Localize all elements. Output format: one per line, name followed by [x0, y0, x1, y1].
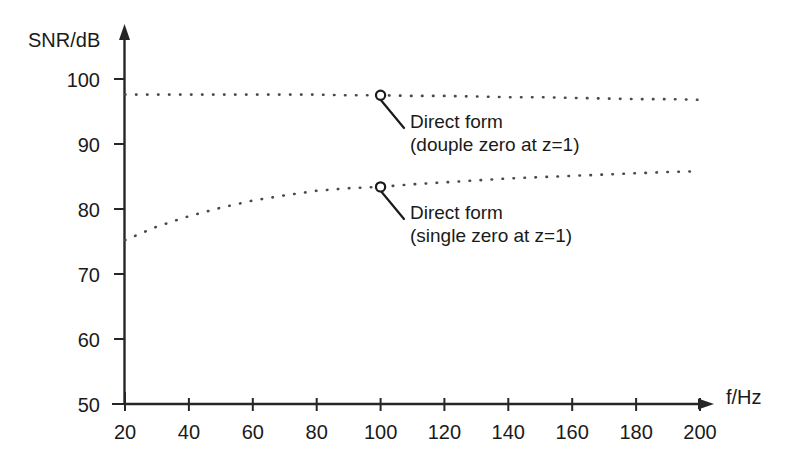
marker-single-zero-100hz[interactable]	[376, 182, 385, 191]
y-tick-label-100: 100	[67, 69, 100, 91]
curve-double-zero	[125, 95, 700, 100]
snr-vs-frequency-chart: 100 90 80 70 60 50 20 40 60 80 100	[0, 0, 795, 463]
x-tick-label-80: 80	[306, 421, 328, 443]
leader-line-double-zero	[380, 99, 404, 128]
annotation-single-zero: Direct form (single zero at z=1)	[410, 202, 572, 246]
leader-line-single-zero	[380, 190, 404, 219]
x-tick-label-100: 100	[364, 421, 397, 443]
x-tick-label-20: 20	[114, 421, 136, 443]
x-tick-label-40: 40	[178, 421, 200, 443]
y-tick-label-60: 60	[78, 329, 100, 351]
y-tick-label-70: 70	[78, 264, 100, 286]
data-markers	[376, 91, 385, 192]
chart-figure: 100 90 80 70 60 50 20 40 60 80 100	[0, 0, 795, 463]
x-tick-label-200: 200	[683, 421, 716, 443]
x-axis-ticks	[125, 392, 700, 411]
y-axis-tick-labels: 100 90 80 70 60 50	[67, 69, 100, 416]
x-tick-label-140: 140	[492, 421, 525, 443]
annotation-double-zero: Direct form (douple zero at z=1)	[410, 111, 580, 155]
marker-double-zero-100hz[interactable]	[376, 91, 385, 100]
y-tick-label-90: 90	[78, 134, 100, 156]
y-tick-label-50: 50	[78, 394, 100, 416]
y-axis-ticks	[112, 79, 125, 404]
x-axis-title: f/Hz	[726, 386, 762, 408]
x-tick-label-120: 120	[428, 421, 461, 443]
x-tick-label-180: 180	[619, 421, 652, 443]
annotation-double-zero-line1: Direct form	[410, 111, 503, 132]
x-tick-label-160: 160	[556, 421, 589, 443]
y-axis-arrow-icon	[119, 24, 130, 40]
x-axis-tick-labels: 20 40 60 80 100 120 140 160 180 200	[114, 421, 717, 443]
y-axis-title: SNR/dB	[28, 29, 100, 51]
leader-lines	[380, 99, 404, 219]
y-tick-label-80: 80	[78, 199, 100, 221]
annotation-double-zero-line2: (douple zero at z=1)	[410, 134, 580, 155]
x-tick-label-60: 60	[242, 421, 264, 443]
annotation-single-zero-line2: (single zero at z=1)	[410, 225, 572, 246]
annotation-single-zero-line1: Direct form	[410, 202, 503, 223]
